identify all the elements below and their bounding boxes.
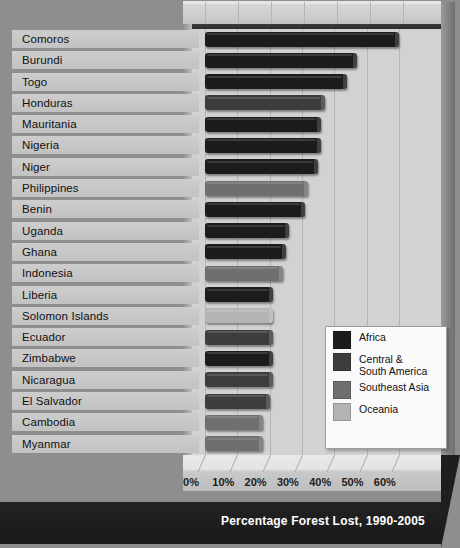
bar-row	[205, 157, 441, 178]
bar-cap	[343, 74, 347, 89]
bar	[205, 394, 270, 409]
slab-seam	[238, 2, 239, 24]
bar-highlight	[207, 352, 268, 354]
legend-label: Southeast Asia	[359, 381, 429, 394]
category-label: Indonesia	[22, 265, 73, 281]
category-label-row: Mauritania	[12, 114, 199, 135]
bar-cap	[301, 202, 305, 217]
bar-highlight	[207, 118, 316, 120]
slab-seam	[370, 2, 371, 24]
legend-swatch	[333, 353, 351, 371]
slab-seam	[337, 2, 338, 24]
category-label: Honduras	[22, 95, 73, 111]
category-label-row: Indonesia	[12, 263, 199, 284]
bar-highlight	[207, 161, 313, 163]
backdrop-top-seams	[183, 2, 441, 24]
category-label-row: Nigeria	[12, 135, 199, 156]
chart-title-bar: Percentage Forest Lost, 1990-2005	[0, 502, 441, 544]
chart-canvas: ComorosBurundiTogoHondurasMauritaniaNige…	[0, 0, 460, 548]
bar-cap	[353, 53, 357, 68]
bar-row	[205, 242, 441, 263]
bar-cap	[269, 351, 273, 366]
bar-row	[205, 29, 441, 50]
category-label-row: Philippines	[12, 178, 199, 199]
bar-highlight	[207, 438, 258, 440]
bar-cap	[321, 95, 325, 110]
bar-cap	[282, 244, 286, 259]
bar-cap	[317, 138, 321, 153]
bar-highlight	[207, 139, 316, 141]
bar	[205, 95, 325, 110]
category-label-row: Nicaragua	[12, 370, 199, 391]
bar	[205, 351, 273, 366]
bar-cap	[269, 308, 273, 323]
category-label: Cambodia	[22, 414, 75, 430]
bar	[205, 32, 399, 47]
bar-row	[205, 221, 441, 242]
category-label-row: El Salvador	[12, 391, 199, 412]
bar-row	[205, 306, 441, 327]
bar-highlight	[207, 374, 268, 376]
legend-label: Central & South America	[359, 353, 427, 377]
bar-cap	[279, 266, 283, 281]
bar-highlight	[207, 310, 268, 312]
slab-seam	[304, 2, 305, 24]
category-label-row: Honduras	[12, 93, 199, 114]
legend-label: Africa	[359, 331, 386, 344]
axis-tick-label: 10%	[212, 476, 234, 488]
legend-swatch	[333, 403, 351, 421]
legend-item: Oceania	[326, 399, 446, 421]
bar-cap	[259, 436, 263, 451]
category-label: Solomon Islands	[22, 308, 109, 324]
bar	[205, 330, 273, 345]
tick-mark	[326, 455, 335, 473]
bar-cap	[259, 415, 263, 430]
bar-cap	[269, 330, 273, 345]
axis-tick-label: 20%	[245, 476, 267, 488]
legend-swatch	[333, 331, 351, 349]
slab-seam	[403, 2, 404, 24]
bar-row	[205, 135, 441, 156]
tick-mark	[294, 455, 303, 473]
category-label-row: Niger	[12, 157, 199, 178]
tick-mark	[197, 455, 206, 473]
bar-highlight	[207, 225, 284, 227]
bar	[205, 223, 289, 238]
category-axis-labels: ComorosBurundiTogoHondurasMauritaniaNige…	[12, 29, 199, 455]
bar-highlight	[207, 33, 394, 35]
tick-mark	[229, 455, 238, 473]
category-label: Nicaragua	[22, 372, 75, 388]
bar-highlight	[207, 289, 268, 291]
category-label: Ecuador	[22, 329, 66, 345]
category-label: Niger	[22, 159, 50, 175]
category-label-row: Uganda	[12, 221, 199, 242]
bar	[205, 138, 321, 153]
bar-cap	[317, 117, 321, 132]
category-label: Ghana	[22, 244, 57, 260]
category-label-row: Liberia	[12, 285, 199, 306]
category-label: Liberia	[22, 287, 57, 303]
category-label: El Salvador	[22, 393, 82, 409]
bar-highlight	[207, 395, 265, 397]
value-axis-ticks: 0%10%20%30%40%50%60%	[165, 476, 441, 492]
bar-cap	[314, 159, 318, 174]
bar-highlight	[207, 76, 342, 78]
bar-row	[205, 178, 441, 199]
bar-row	[205, 263, 441, 284]
category-label-row: Benin	[12, 199, 199, 220]
bar	[205, 159, 318, 174]
bar	[205, 181, 308, 196]
category-label-row: Comoros	[12, 29, 199, 50]
bar	[205, 287, 273, 302]
axis-tick-label: 30%	[277, 476, 299, 488]
category-label: Philippines	[22, 180, 79, 196]
bar-cap	[304, 181, 308, 196]
bar-cap	[269, 372, 273, 387]
legend-label: Oceania	[359, 403, 398, 416]
bar	[205, 53, 357, 68]
bar	[205, 117, 321, 132]
category-label: Burundi	[22, 52, 62, 68]
category-label: Nigeria	[22, 137, 59, 153]
bar-highlight	[207, 97, 320, 99]
axis-tick-label: 0%	[183, 476, 199, 488]
